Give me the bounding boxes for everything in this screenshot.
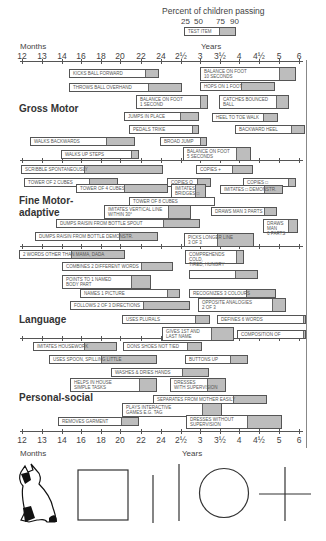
- tick-mark: [299, 59, 300, 64]
- tick-mark: [181, 429, 182, 434]
- tick-mark: [141, 59, 142, 64]
- tick-mark: [101, 244, 102, 249]
- test-item-bar: 2 WORDS OTHER THAN MAMA, DADA: [19, 250, 125, 259]
- test-item-label: DRESSES WITH SUPERVISION: [174, 380, 217, 390]
- test-item-bar: BUTTONS UP: [185, 355, 248, 364]
- test-item-label: DRAWS MAN 3 PARTS: [215, 209, 262, 214]
- test-item-bar: WALKS BACKWARDS: [30, 137, 135, 146]
- tick-label-bottom: 3: [198, 435, 203, 445]
- tick-mark: [181, 244, 182, 249]
- tick-mark: [299, 158, 300, 163]
- tick-mark: [42, 59, 43, 64]
- long-vertical-line-figure: [177, 464, 181, 521]
- test-item-label: DRAWS MAN 6 PARTS: [267, 221, 285, 236]
- test-item-bar: USES SPOON, SPILLING LITTLE: [49, 355, 157, 364]
- tick-mark: [22, 429, 23, 434]
- test-item-bar: BACKWARD HEEL: [235, 125, 305, 134]
- test-item-bar: WASHES & DRIES HANDS: [111, 368, 209, 377]
- test-item-bar: THROWS BALL OVERHAND: [69, 83, 182, 92]
- test-item-bar: FOLLOWS 2 OF 3 DIRECTIONS: [70, 301, 190, 310]
- test-item-bar: IMITATES HOUSEWORK: [33, 342, 117, 351]
- tick-mark: [81, 244, 82, 249]
- tick-mark: [22, 158, 23, 163]
- tick-mark: [220, 429, 221, 434]
- tick-mark: [120, 336, 121, 341]
- tick-mark: [259, 244, 260, 249]
- test-item-label: COMPOSITION OF: [241, 332, 281, 337]
- test-item-bar: BALANCE ON FOOT 1 SECOND: [136, 95, 208, 109]
- test-item-label: COMPREHENDS COLD, TIRED, HUNGRY: [189, 252, 225, 267]
- months-label-bottom: Months: [20, 449, 46, 458]
- tick-mark: [141, 158, 142, 163]
- tick-mark: [62, 429, 63, 434]
- tick-mark: [62, 336, 63, 341]
- test-item-label: REMOVES GARMENT: [62, 419, 108, 424]
- tick-mark: [42, 244, 43, 249]
- test-item-bar: DRESSES WITH SUPERVISION: [170, 378, 226, 392]
- test-item-bar: DUMPS RAISIN FROM BOTTLE DEMONSTR.: [35, 232, 158, 241]
- tick-label-bottom: 20: [115, 435, 124, 445]
- test-item-bar: HEEL TO TOE WALK: [212, 113, 278, 122]
- test-item-bar: PICKS LONGER LINE 3 OF 3: [184, 233, 254, 247]
- tick-mark: [239, 59, 240, 64]
- test-item-bar: BALANCE ON FOOT 10 SECONDS: [200, 67, 296, 81]
- test-item-bar: GIVES 1ST AND LAST NAME: [162, 327, 234, 341]
- years-label-top: Years: [201, 42, 221, 51]
- test-item-label: COMBINES 2 DIFFERENT WORDS: [66, 264, 139, 269]
- tick-mark: [101, 429, 102, 434]
- percentile-50: 50: [194, 17, 203, 26]
- test-item-bar: CATCHES BOUNCED BALL: [219, 95, 289, 109]
- tick-mark: [279, 59, 280, 64]
- test-item-label: SEPARATES FROM MOTHER EASILY: [157, 397, 235, 402]
- tick-mark: [161, 429, 162, 434]
- percentile-25: 25: [181, 17, 190, 26]
- test-item-bar: DUMPS RAISIN FROM BOTTLE SPOUT: [56, 219, 200, 228]
- tick-mark: [62, 59, 63, 64]
- test-item-label: IMITATES □ DEMONSTR.: [224, 187, 276, 192]
- tick-label-bottom: 16: [76, 435, 85, 445]
- tick-mark: [22, 336, 23, 341]
- tick-mark: [120, 244, 121, 249]
- test-item-bar: IMITATES VERTICAL LINE WITHIN 30°: [104, 205, 191, 219]
- tick-mark: [259, 429, 260, 434]
- tick-mark: [181, 59, 182, 64]
- test-item-label: WALKS UP STEPS: [65, 152, 104, 157]
- test-item-label: BALANCE ON FOOT 5 SECONDS: [187, 149, 230, 159]
- test-item-bar: KICKS BALL FORWARD: [69, 69, 159, 78]
- test-item-label: PICKS LONGER LINE 3 OF 3: [188, 235, 233, 245]
- tick-mark: [299, 244, 300, 249]
- short-vertical-line-figure: [151, 475, 155, 523]
- test-item-label: SCRIBBLE SPONTANEOUSLY: [25, 167, 88, 172]
- test-item-label: DEFINES 6 WORDS: [221, 317, 263, 322]
- tick-mark: [62, 244, 63, 249]
- legend-example-bar: TEST ITEM: [184, 27, 236, 36]
- test-item-label: GIVES 1ST AND LAST NAME: [166, 329, 200, 339]
- test-item-bar: DRAWS MAN 3 PARTS: [211, 207, 277, 216]
- section-gross-motor: Gross Motor: [19, 103, 78, 115]
- test-item-label: HOPS ON 1 FOOT: [204, 84, 242, 89]
- tick-label-bottom: 12: [17, 435, 26, 445]
- tick-mark: [200, 59, 201, 64]
- test-item-bar: REMOVES GARMENT: [58, 417, 139, 426]
- test-item-bar: HELPS IN HOUSE SIMPLE TASKS: [70, 378, 157, 392]
- test-item-label: 2 WORDS OTHER THAN MAMA, DADA: [23, 252, 104, 257]
- tick-mark: [299, 429, 300, 434]
- months-label-top: Months: [20, 42, 46, 51]
- test-item-bar: POINTS TO 1 NAMED BODY PART: [62, 275, 151, 289]
- test-item-bar: BALANCE ON FOOT 5 SECONDS: [183, 147, 251, 161]
- tick-label-bottom: 24: [156, 435, 165, 445]
- tick-mark: [101, 59, 102, 64]
- tick-mark: [161, 59, 162, 64]
- test-item-bar: COPIES +: [196, 165, 253, 174]
- test-item-bar: DEFINES 6 WORDS: [217, 315, 306, 324]
- test-item-label: DRESSES WITHOUT SUPERVISION: [190, 417, 234, 427]
- test-item-label: IMITATES HOUSEWORK: [37, 344, 88, 349]
- test-item-bar: TOWER OF 4 CUBES: [76, 184, 168, 193]
- test-item-label: HEEL TO TOE WALK: [216, 115, 259, 120]
- test-item-bar: IMITATES □ DEMONSTR.: [220, 185, 283, 194]
- test-item-bar: BROAD JUMP: [160, 137, 207, 146]
- test-item-bar: DRAWS MAN 6 PARTS: [263, 219, 298, 233]
- tick-mark: [239, 429, 240, 434]
- test-item-label: HELPS IN HOUSE SIMPLE TASKS: [74, 380, 112, 390]
- square-figure: [77, 469, 129, 521]
